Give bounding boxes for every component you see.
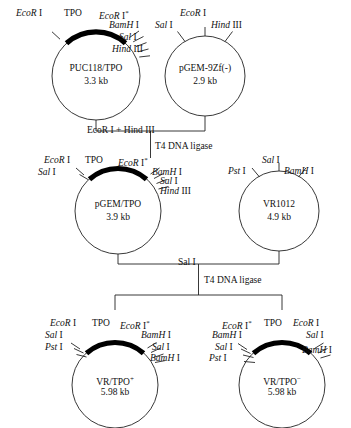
plasmid-name-pgem-9zf: pGEM-9Zf(-) — [155, 62, 255, 74]
insert-arc-puc118-tpo — [67, 32, 126, 43]
site-label-salI-pgem9zf: Sal I — [155, 20, 173, 30]
plasmid-name-pgem-tpo: pGEM/TPO — [68, 198, 168, 210]
digest-step-1-label: EcoR I + Hind III — [87, 125, 155, 135]
site-label-ecorI-vrtpominus: EcoR I — [293, 318, 319, 328]
site-label-pstI-vrtpominus: Pst I — [209, 353, 227, 363]
site-label-ecorI-puc118: EcoR I — [16, 8, 42, 18]
site-label-bamhI-bottom-vrtpoplus: BamH I — [150, 353, 180, 363]
site-label-pstI-vrtpoplus: Pst I — [45, 342, 63, 352]
site-label-ecorI-vrtpoplus: EcoR I — [50, 318, 76, 328]
site-label-salI-right-vrtpoplus: Sal I — [152, 342, 170, 352]
plasmid-name-vr1012: VR1012 — [229, 198, 329, 210]
site-label-ecorI-star-pgemtpo: EcoR I* — [118, 155, 148, 168]
site-label-salI-vr1012: Sal I — [262, 155, 280, 165]
site-label-bamhI-vr1012: BamH I — [284, 166, 314, 176]
site-label-bamhI-top-vrtpoplus: BamH I — [141, 330, 171, 340]
site-label-hindIII-pgem9zf: Hind III — [211, 20, 242, 30]
site-label-salI-left-vrtpoplus: Sal I — [45, 330, 63, 340]
insert-label-tpo-pgemtpo: TPO — [85, 155, 103, 165]
site-label-salI-left-vrtpominus: Sal I — [215, 342, 233, 352]
ligase-step-2-label: T4 DNA ligase — [204, 275, 262, 285]
insert-arc-vr-tpo-plus — [87, 342, 144, 353]
plasmid-size-pgem-9zf: 2.9 kb — [155, 75, 255, 87]
plasmid-size-vr-tpo-minus: 5.98 kb — [232, 386, 332, 398]
insert-arc-pgem-tpo — [90, 168, 147, 179]
site-label-hindIII-pgemtpo: Hind III — [160, 186, 191, 196]
insert-label-tpo-vrtpoplus: TPO — [92, 318, 110, 328]
plasmid-size-puc118-tpo: 3.3 kb — [46, 75, 146, 87]
site-label-bamhI-puc118: BamH I — [109, 20, 139, 30]
ligase-step-1-label: T4 DNA ligase — [155, 141, 213, 151]
insert-label-tpo-vrtpominus: TPO — [264, 318, 282, 328]
site-label-salI-left-pgemtpo: Sal I — [38, 167, 56, 177]
plasmid-size-vr-tpo-plus: 5.98 kb — [65, 386, 165, 398]
site-label-ecorI-pgem9zf: EcoR I — [180, 8, 206, 18]
site-label-bamhI-right-vrtpominus: BamH I — [302, 345, 332, 355]
site-label-ecorI-pgemtpo: EcoR I — [44, 155, 70, 165]
site-label-salI-pgemtpo: Sal I — [160, 176, 178, 186]
site-label-bamhI-left-vrtpominus: BamH I — [212, 330, 242, 340]
site-label-pstI-vr1012: Pst I — [228, 166, 246, 176]
plasmid-size-vr1012: 4.9 kb — [229, 211, 329, 223]
figure-canvas: EcoR I TPO EcoR I* BamH I Sal I Hind III… — [0, 0, 351, 428]
plasmid-name-puc118-tpo: PUC118/TPO — [46, 62, 146, 74]
digest-step-2-label: Sal I — [178, 257, 196, 267]
site-label-hindIII-puc118: Hind III — [112, 44, 143, 54]
site-label-salI-puc118: Sal I — [119, 32, 137, 42]
site-label-salI-right-vrtpominus: Sal I — [306, 330, 324, 340]
insert-label-tpo-puc118: TPO — [64, 8, 82, 18]
plasmid-size-pgem-tpo: 3.9 kb — [68, 211, 168, 223]
